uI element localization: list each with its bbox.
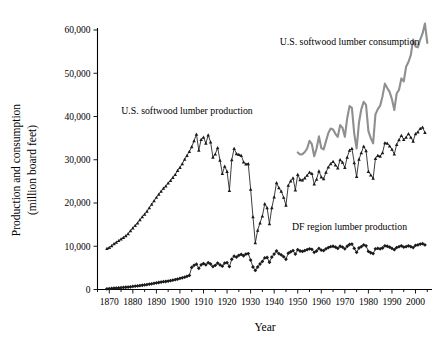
data-point-marker: [355, 250, 359, 254]
data-point-marker: [190, 145, 194, 148]
annotation-us-softwood-lumber-consumption: U.S. softwood lumber consumption: [280, 36, 420, 47]
x-tick-label: 1950: [288, 297, 307, 307]
data-point-marker: [195, 132, 199, 135]
data-point-marker: [261, 214, 265, 217]
chart-axes: [94, 28, 433, 294]
data-point-marker: [317, 169, 321, 172]
data-point-marker: [355, 175, 359, 178]
data-point-marker: [376, 154, 380, 157]
x-tick-label: 1890: [147, 297, 166, 307]
data-point-marker: [308, 171, 312, 174]
y-axis-title-line1: Production and consumption: [10, 104, 23, 236]
y-tick-label: 30,000: [64, 155, 90, 165]
x-tick-label: 1980: [359, 297, 378, 307]
data-point-marker: [232, 147, 236, 150]
data-point-marker: [235, 152, 239, 155]
data-point-marker: [209, 140, 213, 143]
x-tick-label: 1910: [194, 297, 213, 307]
data-point-marker: [320, 175, 324, 178]
y-tick-label: 20,000: [64, 198, 90, 208]
x-tick-label: 1960: [312, 297, 331, 307]
data-point-marker: [202, 136, 206, 139]
x-tick-label: 1990: [382, 297, 401, 307]
x-tick-label: 1970: [335, 297, 354, 307]
data-point-marker: [204, 142, 208, 145]
data-point-marker: [256, 229, 260, 232]
series-df-region-lumber-production-line: [107, 244, 425, 289]
data-point-marker: [221, 172, 225, 175]
data-point-marker: [381, 151, 385, 154]
x-tick-label: 1870: [100, 297, 119, 307]
data-point-marker: [272, 195, 276, 198]
data-point-marker: [350, 242, 354, 246]
x-axis-title: Year: [254, 321, 275, 333]
data-point-marker: [181, 162, 185, 165]
data-point-marker: [421, 126, 425, 129]
y-tick-label: 50,000: [64, 69, 90, 79]
data-point-marker: [324, 171, 328, 174]
data-point-marker: [296, 173, 300, 176]
data-point-marker: [291, 176, 295, 179]
data-point-marker: [218, 158, 222, 161]
data-point-marker: [400, 134, 404, 137]
data-point-marker: [254, 241, 257, 244]
y-axis-tick-labels: 010,00020,00030,00040,00050,00060,000: [64, 25, 90, 295]
data-point-marker: [345, 155, 349, 158]
data-point-marker: [367, 170, 371, 173]
data-point-marker: [294, 188, 298, 191]
lumber-production-consumption-chart: Production and consumption (million boar…: [0, 0, 439, 339]
chart-figure: Production and consumption (million boar…: [0, 0, 439, 339]
data-point-marker: [258, 221, 262, 224]
data-point-marker: [263, 202, 267, 205]
data-point-marker: [277, 186, 281, 189]
data-point-marker: [395, 143, 399, 146]
data-point-marker: [270, 206, 274, 209]
x-tick-label: 1930: [241, 297, 260, 307]
data-point-marker: [230, 158, 234, 161]
data-point-marker: [357, 158, 361, 161]
data-point-marker: [287, 184, 291, 187]
data-point-marker: [350, 147, 354, 150]
y-tick-label: 40,000: [64, 112, 90, 122]
data-point-marker: [223, 164, 227, 167]
data-point-marker: [228, 189, 232, 192]
x-axis-tick-labels: 1870188018901900191019201930194019501960…: [100, 297, 425, 307]
data-point-marker: [343, 166, 347, 169]
data-point-marker: [331, 160, 335, 163]
x-tick-label: 1880: [123, 297, 142, 307]
data-point-marker: [197, 148, 201, 151]
data-point-marker: [265, 256, 269, 260]
data-point-marker: [249, 258, 253, 262]
data-point-marker: [393, 152, 397, 155]
data-point-marker: [242, 160, 246, 163]
data-point-marker: [397, 138, 401, 141]
data-point-marker: [275, 181, 279, 184]
data-point-marker: [362, 145, 366, 148]
x-tick-label: 1920: [218, 297, 237, 307]
data-point-marker: [228, 265, 232, 269]
x-tick-label: 1900: [170, 297, 189, 307]
data-point-marker: [268, 222, 272, 225]
data-point-marker: [353, 161, 357, 164]
y-axis-title-line2: (million board feet): [26, 125, 39, 215]
data-point-marker: [282, 196, 286, 199]
data-point-marker: [312, 182, 316, 185]
chart-plot-area: [105, 24, 427, 291]
data-point-marker: [188, 150, 192, 153]
data-point-marker: [214, 152, 218, 155]
data-point-marker: [315, 177, 319, 180]
data-point-marker: [192, 139, 196, 142]
y-tick-label: 60,000: [64, 25, 90, 35]
data-point-marker: [206, 133, 210, 136]
annotation-us-softwood-lumber-production: U.S. softwood lumber production: [121, 105, 253, 116]
data-point-marker: [225, 261, 229, 265]
x-tick-label: 1940: [265, 297, 284, 307]
annotation-df-region-lumber-production: DF region lumber production: [292, 221, 407, 232]
y-tick-label: 10,000: [64, 242, 90, 252]
x-tick-label: 2000: [406, 297, 425, 307]
data-point-marker: [284, 203, 288, 206]
data-point-marker: [268, 260, 272, 264]
series-df-region-lumber-production: [105, 242, 427, 291]
data-point-marker: [364, 149, 368, 152]
data-point-marker: [360, 151, 364, 154]
